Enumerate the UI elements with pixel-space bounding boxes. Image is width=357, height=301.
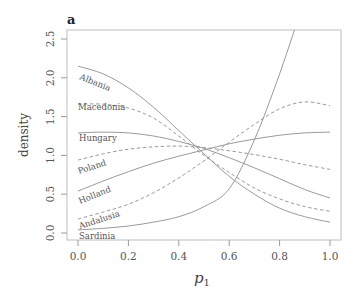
x-tick-label: 0.0 [70,250,87,262]
curves [78,0,330,230]
x-tick-label: 1.0 [322,250,339,262]
y-axis: 0.00.51.01.52.02.5 [44,31,67,242]
density-chart: a 0.00.51.01.52.02.5 0.00.20.40.60.81.0 … [0,0,357,301]
curve-sardinia [78,0,330,230]
y-axis-label: density [17,113,31,157]
x-tick-label: 0.4 [170,250,187,262]
curve-label-sardinia: Sardinia [79,231,115,241]
curve-andalusia [78,102,330,219]
y-tick-label: 2.0 [44,69,56,86]
curve-label-holland: Holland [77,184,113,206]
curve-label-poland: Poland [77,157,108,176]
y-tick-label: 1.5 [44,108,56,125]
y-tick-label: 1.0 [44,147,56,164]
curve-label-macedonia: Macedonia [78,102,125,112]
x-axis-label: p1 [194,269,210,288]
x-axis: 0.00.20.40.60.81.0 [70,240,339,262]
x-tick-label: 0.8 [271,250,288,262]
curve-label-albania: Albania [77,71,112,93]
y-tick-label: 2.5 [44,31,56,48]
curve-albania [78,66,330,222]
y-tick-label: 0.0 [44,225,56,242]
x-tick-label: 0.2 [120,250,137,262]
x-tick-label: 0.6 [221,250,238,262]
curve-label-hungary: Hungary [79,133,117,143]
y-tick-label: 0.5 [44,186,56,203]
panel-label: a [67,12,76,27]
curve-labels: AlbaniaMacedoniaHungaryPolandHollandAnda… [77,71,126,241]
curve-macedonia [78,104,330,211]
